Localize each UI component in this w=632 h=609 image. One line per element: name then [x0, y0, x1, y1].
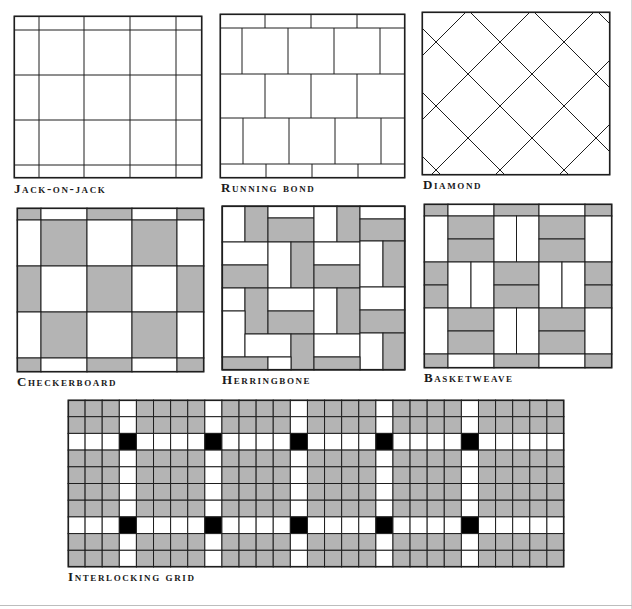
grid-tile — [102, 484, 119, 501]
herringbone-tile — [360, 241, 383, 287]
grid-tile — [359, 467, 376, 484]
herringbone-tile — [222, 265, 268, 288]
herringbone-tile — [268, 357, 291, 370]
grid-tile — [205, 500, 222, 517]
grid-tile — [239, 484, 256, 501]
herringbone-tile — [268, 242, 291, 288]
grid-tile — [239, 417, 256, 434]
grid-tile — [427, 484, 444, 501]
grid-tile — [444, 517, 461, 534]
herringbone-tile — [222, 242, 268, 265]
grid-tile — [222, 400, 239, 417]
grid-tile — [205, 467, 222, 484]
grid-tile — [530, 484, 547, 501]
grid-tile — [154, 550, 171, 567]
grid-tile — [342, 550, 359, 567]
grid-tile — [359, 417, 376, 434]
checker-tile — [17, 266, 41, 312]
black-intersection-tile — [205, 433, 222, 450]
grid-tile — [85, 400, 102, 417]
grid-tile — [239, 400, 256, 417]
grid-tile — [85, 550, 102, 567]
grid-tile — [188, 400, 205, 417]
herringbone-tile — [360, 219, 405, 241]
grid-tile — [410, 484, 427, 501]
grid-tile — [154, 517, 171, 534]
grid-tile — [376, 534, 393, 551]
grid-tile — [530, 534, 547, 551]
grid-tile — [136, 433, 153, 450]
grid-tile — [256, 484, 273, 501]
grid-tile — [273, 550, 290, 567]
checker-tile — [132, 266, 177, 312]
grid-tile — [119, 400, 136, 417]
grid-tile — [325, 433, 342, 450]
grid-tile — [136, 534, 153, 551]
basket-tile — [424, 285, 448, 308]
grid-tile — [256, 433, 273, 450]
grid-tile — [376, 450, 393, 467]
herringbone-tile — [360, 333, 383, 370]
grid-tile — [222, 550, 239, 567]
grid-tile — [478, 534, 495, 551]
grid-tile — [154, 534, 171, 551]
basket-tile — [539, 204, 585, 216]
grid-tile — [188, 417, 205, 434]
grid-tile — [393, 467, 410, 484]
grid-tile — [461, 417, 478, 434]
grid-tile — [478, 400, 495, 417]
basket-tile — [448, 216, 494, 239]
jack-on-jack-pattern — [14, 16, 202, 178]
grid-tile — [239, 450, 256, 467]
grid-tile — [376, 484, 393, 501]
checker-tile — [17, 220, 41, 266]
grid-tile — [478, 433, 495, 450]
basket-tile — [424, 204, 448, 216]
grid-tile — [513, 484, 530, 501]
grid-tile — [410, 550, 427, 567]
black-intersection-tile — [376, 433, 393, 450]
grid-tile — [359, 550, 376, 567]
page-bottom-rule — [0, 605, 632, 606]
interlocking-grid-pattern — [68, 400, 564, 567]
grid-tile — [273, 400, 290, 417]
herringbone-tile — [291, 334, 314, 370]
grid-tile — [171, 500, 188, 517]
grid-tile — [205, 450, 222, 467]
grid-tile — [307, 534, 324, 551]
grid-tile — [290, 550, 307, 567]
grid-tile — [393, 433, 410, 450]
basket-tile — [539, 239, 585, 262]
grid-tile — [513, 500, 530, 517]
grid-tile — [496, 433, 513, 450]
grid-tile — [393, 450, 410, 467]
grid-tile — [513, 517, 530, 534]
grid-tile — [513, 534, 530, 551]
grid-tile — [342, 467, 359, 484]
herringbone-tile — [337, 288, 360, 334]
grid-tile — [427, 433, 444, 450]
grid-tile — [478, 517, 495, 534]
grid-tile — [256, 550, 273, 567]
grid-tile — [478, 550, 495, 567]
grid-tile — [496, 550, 513, 567]
grid-tile — [376, 400, 393, 417]
basket-tile — [539, 331, 585, 354]
grid-tile — [222, 500, 239, 517]
basket-tile — [494, 285, 539, 308]
grid-tile — [393, 484, 410, 501]
grid-tile — [273, 433, 290, 450]
grid-tile — [325, 450, 342, 467]
grid-tile — [547, 400, 564, 417]
grid-tile — [547, 433, 564, 450]
grid-tile — [393, 517, 410, 534]
grid-tile — [444, 467, 461, 484]
grid-tile — [171, 534, 188, 551]
checker-tile — [41, 266, 87, 312]
grid-tile — [136, 484, 153, 501]
grid-tile — [376, 467, 393, 484]
grid-tile — [393, 500, 410, 517]
grid-tile — [102, 400, 119, 417]
basketweave-caption: Basketweave — [424, 370, 514, 386]
grid-tile — [171, 550, 188, 567]
